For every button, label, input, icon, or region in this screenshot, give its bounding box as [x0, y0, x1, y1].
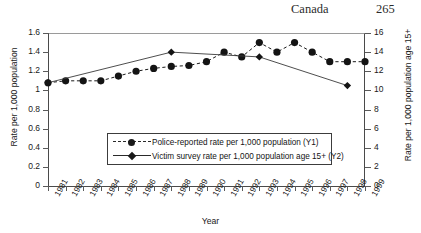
y-axis-left-tick: [43, 33, 49, 34]
y-axis-right-tick-label: 8: [374, 105, 398, 114]
y-axis-right-tick: [365, 52, 371, 53]
y-axis-right-tick: [365, 33, 371, 34]
y-axis-left-tick-label: 0.6: [0, 124, 40, 133]
legend-label-police: Police-reported rate per 1,000 populatio…: [152, 138, 319, 147]
y-axis-left-tick: [43, 52, 49, 53]
y-axis-left-tick-label: 0.2: [0, 162, 40, 171]
y-axis-left-tick-label: 1.6: [0, 28, 40, 37]
y-axis-right-tick: [365, 167, 371, 168]
y-axis-right-tick-label: 16: [374, 28, 398, 37]
legend-swatch-dashed-circle-icon: [112, 136, 152, 148]
y-axis-left-tick: [43, 167, 49, 168]
y-axis-right-tick: [365, 129, 371, 130]
x-axis-tick: [48, 186, 49, 191]
page-number: 265: [376, 2, 395, 17]
chart-figure: 00.20.40.60.811.21.41.6 0246810121416 19…: [0, 20, 421, 233]
x-axis-title: Year: [0, 216, 421, 226]
y-axis-left-title: Rate per 1,000 population: [9, 27, 19, 167]
legend-swatch-solid-diamond-icon: [112, 150, 152, 162]
y-axis-left-tick-label: 0.8: [0, 105, 40, 114]
y-axis-left-tick: [43, 110, 49, 111]
y-axis-right-tick-label: 4: [374, 143, 398, 152]
y-axis-left-tick: [43, 90, 49, 91]
y-axis-left-tick-label: 0: [0, 181, 40, 190]
chart-legend: Police-reported rate per 1,000 populatio…: [107, 133, 332, 165]
legend-item-victim: Victim survey rate per 1,000 population …: [112, 149, 344, 163]
y-axis-right-tick-label: 2: [374, 162, 398, 171]
y-axis-left-tick: [43, 71, 49, 72]
y-axis-right-tick: [365, 110, 371, 111]
y-axis-right-tick: [365, 90, 371, 91]
legend-label-victim: Victim survey rate per 1,000 population …: [152, 152, 344, 161]
y-axis-left-tick: [43, 148, 49, 149]
legend-item-police: Police-reported rate per 1,000 populatio…: [112, 135, 319, 149]
y-axis-right-tick-label: 14: [374, 47, 398, 56]
y-axis-left-tick: [43, 129, 49, 130]
running-head-title: Canada: [291, 2, 328, 17]
y-axis-right-tick-label: 6: [374, 124, 398, 133]
y-axis-left-tick-label: 0.4: [0, 143, 40, 152]
y-axis-left-tick-label: 1: [0, 85, 40, 94]
y-axis-left-tick-label: 1.2: [0, 66, 40, 75]
y-axis-right-tick: [365, 148, 371, 149]
running-head: Canada 265: [0, 2, 421, 18]
page-root: Canada 265 00.20.40.60.811.21.41.6 02468…: [0, 0, 421, 233]
y-axis-left-tick-label: 1.4: [0, 47, 40, 56]
y-axis-right-tick-label: 10: [374, 85, 398, 94]
x-axis-tick-label: 1999: [369, 177, 387, 198]
y-axis-right-tick-label: 12: [374, 66, 398, 75]
y-axis-right-title: Rate per 1,000 population age 15+: [403, 20, 413, 170]
y-axis-right-tick: [365, 71, 371, 72]
